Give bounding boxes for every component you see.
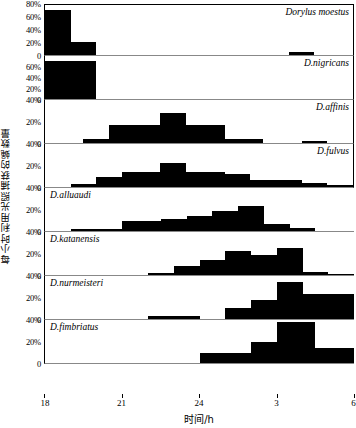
bar [173, 113, 186, 143]
y-tick-label: 40% [26, 95, 41, 105]
bar [199, 172, 212, 187]
bar [187, 316, 200, 319]
bar [135, 125, 148, 143]
y-tick-label: 60% [26, 62, 41, 72]
bar [109, 229, 122, 231]
bar [303, 294, 316, 319]
bar [237, 174, 250, 187]
bar [303, 272, 316, 275]
bar [187, 216, 200, 231]
bar [225, 251, 238, 275]
bar [290, 282, 303, 319]
y-axis-ticks: 40%20%0 [18, 276, 43, 320]
species-label: D.affinis [316, 102, 349, 112]
bar [303, 228, 316, 231]
y-tick-label: 0 [37, 359, 41, 369]
bar [160, 163, 173, 187]
bar [225, 174, 238, 187]
bar [160, 113, 173, 143]
bar [45, 61, 58, 100]
y-axis-ticks: 40%20%0 [18, 188, 43, 232]
species-label: D.nigricans [304, 58, 349, 68]
panel-d-affinis: 40%20%0D.affinis [18, 100, 354, 144]
plot-area: D.nigricans [44, 56, 354, 100]
bar [277, 248, 290, 276]
x-axis-title: 时间/h [44, 411, 354, 426]
bar [148, 273, 161, 275]
bar [315, 272, 328, 275]
y-tick-label: 40% [26, 73, 41, 83]
x-axis: 时间/h 18212436 [44, 394, 354, 424]
panel-d-alluaudi: 40%20%0D.alluaudi [18, 188, 354, 232]
bar [315, 348, 328, 363]
panel-d-nigricans: 60%40%20%0D.nigricans [18, 56, 354, 100]
bar [174, 316, 187, 319]
panel-d-katanensis: 40%20%0D.katanensis [18, 232, 354, 276]
bar [58, 61, 71, 100]
bar [225, 353, 238, 363]
bar [328, 274, 341, 275]
y-tick-label: 40% [26, 25, 41, 35]
bar [341, 294, 354, 319]
y-axis-ticks: 40%20%0 [18, 232, 43, 276]
y-tick-label: 60% [26, 12, 41, 22]
bar [263, 180, 276, 187]
species-label: Dorylus moestus [285, 7, 349, 17]
bar [96, 177, 109, 187]
x-tick-label: 24 [195, 398, 204, 408]
bar [290, 322, 303, 363]
y-tick-label: 40% [26, 227, 41, 237]
bar [148, 316, 161, 319]
bar [250, 139, 263, 143]
y-axis-ticks: 80%60%40%20%0 [18, 4, 43, 56]
panel-dorylus-moestus: 80%60%40%20%0Dorylus moestus [18, 4, 354, 56]
bar [71, 61, 84, 100]
bar [328, 348, 341, 363]
bar [264, 300, 277, 319]
bar [264, 224, 277, 231]
bar [277, 224, 290, 231]
bar [161, 273, 174, 275]
species-label: D.alluaudi [50, 190, 91, 200]
bar [341, 348, 354, 363]
bar [83, 61, 96, 100]
bar [174, 266, 187, 275]
bar [71, 42, 84, 55]
plot-area: D.nurmeisteri [44, 276, 354, 320]
bar [122, 125, 135, 143]
y-tick-label: 40% [26, 139, 41, 149]
bar [251, 342, 264, 363]
plot-area: D.fulvus [44, 144, 354, 188]
y-tick-label: 40% [26, 183, 41, 193]
y-tick-label: 20% [26, 293, 41, 303]
bar [58, 10, 71, 56]
bar [173, 163, 186, 187]
bar-series [45, 100, 353, 143]
plot-area: D.alluaudi [44, 188, 354, 232]
bar [302, 141, 315, 143]
bar [315, 294, 328, 319]
bar [212, 353, 225, 363]
bar [341, 274, 354, 275]
species-label: D.nurmeisteri [50, 278, 103, 288]
bar [122, 221, 135, 231]
x-tick-label: 18 [40, 398, 49, 408]
y-axis-ticks: 40%20%0 [18, 320, 43, 364]
y-tick-label: 40% [26, 315, 41, 325]
y-axis-title: 每小时利用光照捕获的蝇数量 [0, 0, 14, 390]
x-tick-label: 21 [117, 398, 126, 408]
plot-area: D.affinis [44, 100, 354, 144]
bar [289, 52, 302, 55]
bar [277, 282, 290, 319]
bar [340, 185, 353, 187]
bar [109, 125, 122, 143]
bar [264, 255, 277, 275]
bar [225, 211, 238, 231]
panel-stack: 80%60%40%20%0Dorylus moestus60%40%20%0D.… [18, 4, 354, 364]
bar [122, 172, 135, 187]
bar [84, 229, 97, 231]
bar [109, 177, 122, 187]
bar [71, 229, 84, 231]
bar-series [45, 188, 354, 231]
panel-d-fimbriatus: 40%20%0D.fimbriatus [18, 320, 354, 364]
